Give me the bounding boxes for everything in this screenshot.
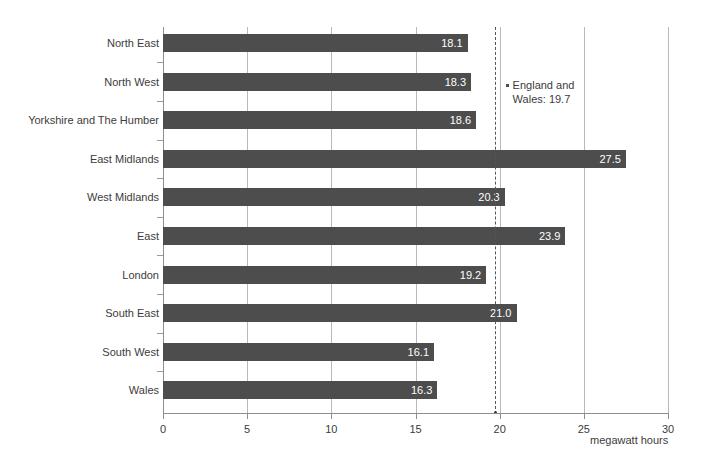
bar-row: 23.9 <box>163 227 565 245</box>
y-axis-tick <box>157 140 163 141</box>
x-axis-tick <box>668 413 669 419</box>
bullet-square-icon <box>506 84 509 87</box>
bar-value-label: 21.0 <box>490 304 511 322</box>
category-label: London <box>122 266 159 284</box>
bar-row: 18.1 <box>163 34 468 52</box>
x-axis-tick <box>247 413 248 419</box>
bar-row: 21.0 <box>163 304 517 322</box>
category-label: East <box>137 227 159 245</box>
x-axis-tick <box>416 413 417 419</box>
bar-value-label: 18.6 <box>450 111 471 129</box>
bar-value-label: 16.3 <box>411 381 432 399</box>
x-axis-tick-label: 0 <box>160 423 166 435</box>
y-axis-tick <box>157 62 163 63</box>
bar-row: 20.3 <box>163 188 505 206</box>
bar-row: 18.6 <box>163 111 476 129</box>
category-label: East Midlands <box>90 150 159 168</box>
bar-value-label: 23.9 <box>539 227 560 245</box>
y-axis-tick <box>157 333 163 334</box>
bar-value-label: 18.1 <box>441 34 462 52</box>
reference-annotation-line1: England and <box>513 79 575 91</box>
x-axis-title: megawatt hours <box>590 434 668 446</box>
reference-line-annotation: England and Wales: 19.7 <box>506 78 575 106</box>
reference-line-england-wales <box>495 27 496 414</box>
bar-chart: 18.118.318.627.520.323.919.221.016.116.3… <box>0 0 708 472</box>
category-label: North West <box>104 73 159 91</box>
bar <box>163 227 565 245</box>
bar <box>163 188 505 206</box>
x-axis-tick <box>500 413 501 419</box>
bar <box>163 73 471 91</box>
x-axis-tick-label: 10 <box>325 423 337 435</box>
bar-value-label: 20.3 <box>478 188 499 206</box>
bar-row: 16.1 <box>163 343 434 361</box>
bar-value-label: 19.2 <box>460 266 481 284</box>
x-axis-tick <box>163 413 164 419</box>
y-axis-tick <box>157 217 163 218</box>
category-label: South East <box>105 304 159 322</box>
bar <box>163 111 476 129</box>
y-axis-tick <box>157 294 163 295</box>
y-axis-tick <box>157 255 163 256</box>
bar <box>163 150 626 168</box>
bar-row: 27.5 <box>163 150 626 168</box>
x-axis-tick <box>331 413 332 419</box>
bar <box>163 266 486 284</box>
category-label: Yorkshire and The Humber <box>28 111 159 129</box>
bar-row: 16.3 <box>163 381 437 399</box>
gridline-25 <box>584 27 585 413</box>
reference-annotation-line2: Wales: 19.7 <box>506 93 571 105</box>
bar <box>163 343 434 361</box>
bar <box>163 381 437 399</box>
category-label: Wales <box>129 381 159 399</box>
bar-value-label: 18.3 <box>445 73 466 91</box>
gridline-30 <box>668 27 669 413</box>
y-axis-tick <box>157 101 163 102</box>
bar-value-label: 16.1 <box>408 343 429 361</box>
bar <box>163 304 517 322</box>
category-label: West Midlands <box>87 188 159 206</box>
y-axis-tick <box>157 178 163 179</box>
category-label: South West <box>102 343 159 361</box>
x-axis-tick-label: 25 <box>578 423 590 435</box>
category-label: North East <box>107 34 159 52</box>
x-axis-tick <box>584 413 585 419</box>
bar-row: 18.3 <box>163 73 471 91</box>
x-axis-tick-label: 5 <box>244 423 250 435</box>
y-axis-tick <box>157 371 163 372</box>
gridline-20 <box>500 27 501 413</box>
bar-row: 19.2 <box>163 266 486 284</box>
x-axis-tick-label: 15 <box>409 423 421 435</box>
bar <box>163 34 468 52</box>
x-axis-tick-label: 20 <box>494 423 506 435</box>
bar-value-label: 27.5 <box>599 150 620 168</box>
